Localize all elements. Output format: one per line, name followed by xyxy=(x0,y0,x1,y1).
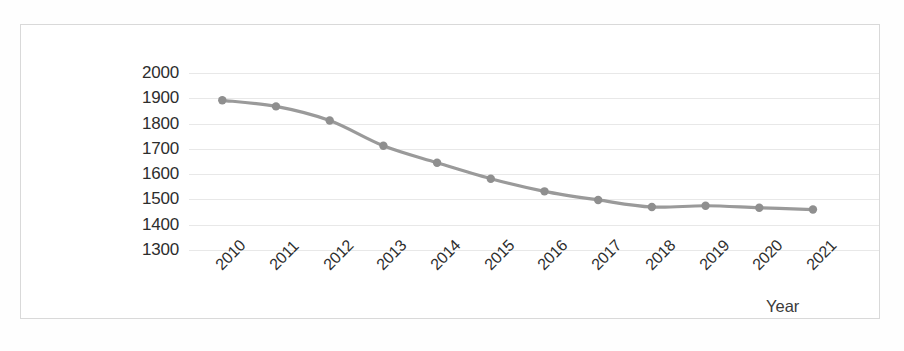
y-tick-label: 2000 xyxy=(119,63,179,83)
page-background: Price (€/sqm) 20001900180017001600150014… xyxy=(0,0,904,351)
data-point-marker xyxy=(379,142,387,150)
y-tick-label: 1700 xyxy=(119,139,179,159)
data-point-marker xyxy=(701,202,709,210)
y-tick-label: 1400 xyxy=(119,215,179,235)
line-series xyxy=(189,73,879,250)
data-point-marker xyxy=(487,174,495,182)
x-axis-title: Year xyxy=(766,297,799,316)
y-tick-label: 1300 xyxy=(119,240,179,260)
series-line xyxy=(222,100,813,209)
chart-frame: Price (€/sqm) 20001900180017001600150014… xyxy=(20,24,880,319)
data-point-marker xyxy=(325,116,333,124)
data-point-marker xyxy=(433,159,441,167)
plot-area: 20001900180017001600150014001300 2010201… xyxy=(189,73,879,250)
data-point-marker xyxy=(594,196,602,204)
data-point-marker xyxy=(540,187,548,195)
y-tick-label: 1600 xyxy=(119,164,179,184)
data-point-marker xyxy=(755,204,763,212)
data-point-marker xyxy=(809,205,817,213)
data-point-marker xyxy=(218,96,226,104)
data-point-marker xyxy=(272,102,280,110)
y-tick-label: 1900 xyxy=(119,88,179,108)
data-point-marker xyxy=(648,203,656,211)
y-tick-label: 1800 xyxy=(119,114,179,134)
y-tick-label: 1500 xyxy=(119,189,179,209)
